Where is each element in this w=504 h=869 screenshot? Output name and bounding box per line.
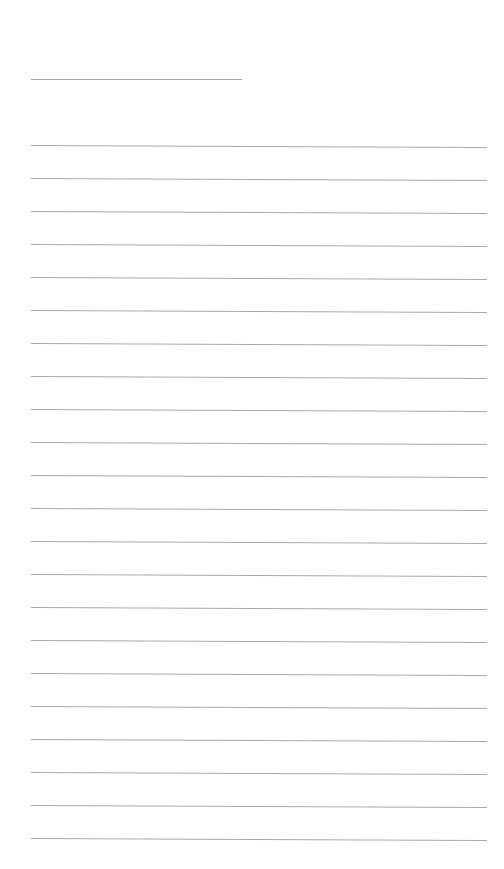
ruled-line <box>31 772 487 775</box>
ruled-line <box>31 211 487 214</box>
ruled-line <box>31 640 487 643</box>
ruled-line <box>31 277 487 280</box>
ruled-line <box>31 145 487 148</box>
ruled-line <box>31 739 487 742</box>
ruled-line <box>31 805 487 808</box>
ruled-line <box>31 706 487 709</box>
ruled-line <box>31 310 487 313</box>
ruled-line <box>31 409 487 412</box>
ruled-line <box>31 541 487 544</box>
ruled-line <box>31 607 487 610</box>
ruled-line <box>31 673 487 676</box>
ruled-line <box>31 475 487 478</box>
ruled-line <box>31 343 487 346</box>
ruled-line <box>31 376 487 379</box>
ruled-line <box>31 838 487 841</box>
ruled-line <box>31 508 487 511</box>
ruled-line <box>31 178 487 181</box>
header-line <box>31 79 242 80</box>
ruled-line <box>31 574 487 577</box>
lined-paper-page <box>0 0 504 869</box>
ruled-line <box>31 442 487 445</box>
ruled-line <box>31 244 487 247</box>
